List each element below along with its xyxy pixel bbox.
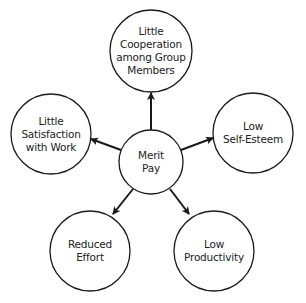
node-label-line: Reduced: [68, 238, 112, 251]
node-label-line: Low: [243, 120, 263, 133]
node-label-low-self-esteem: LowSelf-Esteem: [213, 93, 293, 173]
node-label-little-satisfaction: LittleSatisfactionwith Work: [11, 94, 91, 174]
node-label-reduced-effort: ReducedEffort: [50, 211, 130, 291]
node-label-line: Little: [38, 115, 63, 128]
arrow-to-little-satisfaction: [91, 139, 121, 150]
node-label-merit-pay: MeritPay: [119, 130, 183, 194]
node-label-line: Cooperation: [120, 38, 182, 51]
node-label-line: Pay: [142, 162, 160, 175]
node-label-line: with Work: [26, 141, 76, 154]
node-label-little-cooperation: LittleCooperationamong GroupMembers: [110, 10, 192, 92]
node-label-low-productivity: LowProductivity: [174, 211, 254, 291]
node-label-line: Effort: [76, 251, 104, 264]
node-label-line: Productivity: [184, 251, 244, 264]
node-label-line: Self-Esteem: [223, 133, 283, 146]
node-label-line: Satisfaction: [21, 128, 80, 141]
node-label-line: Little: [138, 25, 163, 38]
node-label-line: Low: [204, 238, 224, 251]
arrow-to-low-self-esteem: [181, 138, 213, 150]
node-label-line: among Group: [116, 51, 186, 64]
node-label-line: Merit: [138, 149, 164, 162]
node-label-line: Members: [127, 64, 174, 77]
